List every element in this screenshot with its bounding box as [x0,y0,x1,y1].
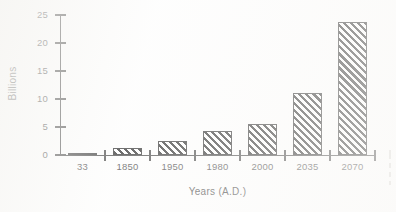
y-axis-tick [55,14,66,16]
x-axis-tick [374,150,375,161]
y-axis-tick-label: 0 [22,150,48,160]
x-axis-tick-label: 1980 [195,162,240,172]
x-axis-tick-label: 2035 [285,162,330,172]
y-axis-tick-label: 15 [22,66,48,76]
y-axis-line [60,15,61,156]
bar [68,153,98,155]
y-axis-tick-label: 20 [22,38,48,48]
x-axis-tick [239,150,240,161]
scan-margin-mark [389,172,391,177]
y-axis-tick-label: 25 [22,10,48,20]
x-axis-tick-label: 33 [60,162,105,172]
x-axis-tick-label: 2070 [330,162,375,172]
x-axis-tick-label: 1850 [105,162,150,172]
x-axis-tick-label: 1950 [150,162,195,172]
bar [293,93,323,155]
y-axis-tick [55,70,66,72]
bar [158,141,188,155]
y-axis-tick [55,98,66,100]
plot-area: 0510152025 33185019501980200020352070 Bi… [0,0,396,212]
bar [113,148,143,155]
scan-margin-mark [389,163,391,168]
y-axis-tick-label: 10 [22,94,48,104]
x-axis-tick [104,150,105,161]
x-axis-tick-label: 2000 [240,162,285,172]
x-axis-tick [149,150,150,161]
scan-margin-mark [389,150,391,159]
x-axis-tick [194,150,195,161]
y-axis-title: Billions [7,54,18,114]
x-axis-title: Years (A.D.) [60,186,375,197]
bar [248,124,278,155]
x-axis-tick [284,150,285,161]
y-axis-tick-label: 5 [22,122,48,132]
y-axis-tick [55,126,66,128]
scan-margin-mark [389,181,391,185]
population-bar-chart: 0510152025 33185019501980200020352070 Bi… [0,0,396,212]
bar [338,22,368,155]
y-axis-tick [55,42,66,44]
bar [203,131,233,155]
y-axis-tick [55,154,66,156]
x-axis-tick [329,150,330,161]
x-axis-line [60,155,375,156]
